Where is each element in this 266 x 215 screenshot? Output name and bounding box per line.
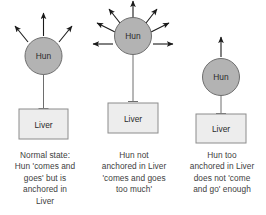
hun-node-label: Hun — [125, 31, 141, 41]
panel-not-anchored: Hun Liver Hun not anchored in Liver 'com… — [88, 0, 180, 215]
panel-normal-state-diagram: Hun Liver — [0, 0, 90, 148]
panel-not-anchored-caption: Hun not anchored in Liver 'comes and goe… — [88, 150, 180, 196]
motion-arrow-left-upper — [97, 23, 115, 32]
motion-arrow-right-upper — [151, 23, 169, 32]
motion-arrow-up-right — [59, 26, 72, 42]
panel-too-anchored-caption: Hun too anchored in Liver does not 'come… — [178, 150, 266, 196]
motion-arrow-up-left — [15, 26, 28, 42]
panel-too-anchored: Hun Liver Hun too anchored in Liver does… — [178, 0, 266, 215]
motion-arrow-up-left — [109, 9, 120, 23]
panel-too-anchored-diagram: Hun Liver — [178, 0, 266, 148]
hun-node-label: Hun — [36, 51, 52, 61]
motion-arrow-up-right — [146, 9, 157, 23]
liver-box-label: Liver — [212, 124, 230, 134]
hun-node-label: Hun — [213, 72, 229, 82]
panel-normal-state: Hun Liver Normal state: Hun 'comes and g… — [0, 0, 90, 215]
liver-box-label: Liver — [124, 114, 142, 124]
liver-box-label: Liver — [34, 120, 52, 130]
panel-not-anchored-diagram: Hun Liver — [88, 0, 180, 148]
hun-liver-anchoring-diagram: Hun Liver Normal state: Hun 'comes and g… — [0, 0, 266, 215]
panel-normal-state-caption: Normal state: Hun 'comes and goes' but i… — [0, 150, 90, 207]
